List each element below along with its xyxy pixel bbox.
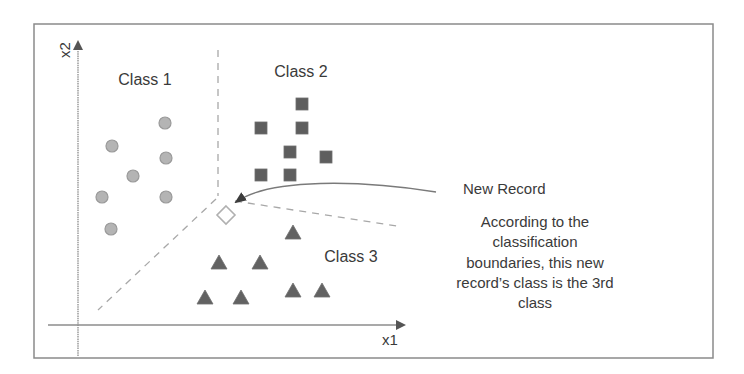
class2-square-marker xyxy=(296,122,308,134)
class1-circle-marker xyxy=(159,117,171,129)
class2-label: Class 2 xyxy=(274,63,327,80)
new-record-label: New Record xyxy=(463,180,546,197)
class1-circle-marker xyxy=(160,152,172,164)
annotation-line: class xyxy=(518,294,552,311)
y-axis-label: x2 xyxy=(56,42,73,58)
class1-label: Class 1 xyxy=(118,71,171,88)
class2-square-marker xyxy=(296,98,308,110)
annotation-line: record’s class is the 3rd xyxy=(456,274,613,291)
classification-diagram: x1 x2 Class 1 Class 2 Class 3 xyxy=(0,0,744,374)
annotation-line: classification xyxy=(492,233,577,250)
class1-circle-marker xyxy=(96,191,108,203)
class1-circle-marker xyxy=(106,140,118,152)
class2-square-marker xyxy=(284,169,296,181)
class1-circle-marker xyxy=(105,223,117,235)
class2-square-marker xyxy=(255,169,267,181)
class2-square-marker xyxy=(255,122,267,134)
annotation-line: boundaries, this new xyxy=(466,254,604,271)
x-axis-label: x1 xyxy=(382,331,398,348)
diagram-canvas: x1 x2 Class 1 Class 2 Class 3 xyxy=(0,0,744,374)
class2-square-marker xyxy=(320,151,332,163)
class1-circle-marker xyxy=(160,191,172,203)
class2-square-marker xyxy=(284,146,296,158)
annotation-line: According to the xyxy=(481,213,589,230)
class1-circle-marker xyxy=(127,170,139,182)
class3-label: Class 3 xyxy=(324,248,377,265)
